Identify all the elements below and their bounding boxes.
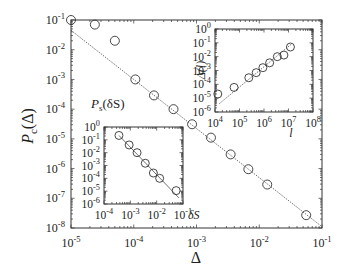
- main-x-tick-label: 10-4: [124, 234, 144, 250]
- main-y-tick-label: 10-2: [46, 41, 65, 57]
- inset2-fit-line: [119, 135, 179, 197]
- main-y-tick-label: 10-1: [46, 11, 65, 27]
- figure: 10-510-410-310-210-110-110-210-310-410-5…: [0, 0, 342, 275]
- inset1-y-tick-label: 10-6: [193, 104, 211, 118]
- inset2-x-axis-label: δS: [188, 208, 200, 222]
- inset1-x-tick-label: 104: [207, 115, 223, 129]
- main-y-axis-label: Pc(Δ): [19, 108, 39, 145]
- inset1-x-tick-label: 106: [256, 115, 272, 129]
- inset1-y-label: Δ(l): [194, 61, 208, 80]
- inset1-y-tick-label: 10-5: [193, 90, 211, 104]
- inset1-data-point: [230, 83, 238, 91]
- inset1-data-point: [286, 43, 294, 51]
- main-y-tick-label: 10-3: [46, 70, 65, 86]
- inset2-data-point: [133, 149, 141, 157]
- inset1-y-tick-label: 10-1: [193, 35, 211, 49]
- main-y-tick-label: 10-6: [46, 159, 66, 175]
- inset1-frame: [215, 29, 313, 112]
- inset2-y-axis-label: Ps(δS): [90, 96, 124, 113]
- main-data-point: [131, 75, 140, 84]
- inset2-y-label-arg: (δS): [102, 96, 124, 111]
- inset1-data-point: [259, 64, 267, 72]
- inset2-x-tick-label: 10-4: [95, 207, 113, 221]
- inset1-y-axis-label: Δ(l): [194, 61, 208, 80]
- main-data-point: [263, 180, 272, 189]
- inset1-x-axis-label: l: [289, 126, 293, 140]
- inset1-fit-line: [219, 44, 291, 103]
- inset2-data-point: [125, 141, 133, 149]
- inset1-data-point: [245, 74, 253, 82]
- main-y-tick-label: 10-7: [46, 189, 66, 205]
- main-y-tick-label: 10-8: [46, 219, 65, 235]
- inset-delta-l-plot: 10410510610710810010-110-210-310-410-510…: [193, 21, 321, 129]
- main-data-point: [110, 36, 119, 45]
- inset2-data-point: [172, 187, 180, 195]
- main-y-label-arg: (Δ): [19, 108, 37, 129]
- main-x-tick-label: 10-3: [187, 234, 206, 250]
- main-x-tick-label: 10-2: [250, 234, 269, 250]
- inset-ps-plot: 10-410-310-210-110010-110-210-310-410-51…: [82, 119, 193, 221]
- main-x-tick-label: 10-1: [312, 234, 331, 250]
- main-y-tick-label: 10-5: [46, 130, 65, 146]
- inset2-x-tick-label: 10-2: [147, 207, 165, 221]
- inset2-y-tick-label: 10-6: [82, 196, 100, 210]
- main-x-axis-label: Δ: [191, 249, 201, 266]
- main-y-label-P: P: [19, 134, 36, 145]
- inset2-y-label-P: P: [90, 96, 99, 111]
- inset1-x-tick-label: 108: [305, 115, 321, 129]
- inset2-x-tick-label: 10-3: [121, 207, 139, 221]
- svg-text:Pc(Δ): Pc(Δ): [19, 108, 39, 145]
- main-x-tick-label: 10-5: [61, 234, 80, 250]
- inset1-x-tick-label: 105: [232, 115, 248, 129]
- main-data-point: [169, 105, 178, 114]
- main-y-tick-label: 10-4: [46, 100, 66, 116]
- inset1-y-tick-label: 10-2: [193, 49, 211, 63]
- inset1-y-tick-label: 100: [195, 21, 211, 35]
- main-data-point: [90, 20, 99, 29]
